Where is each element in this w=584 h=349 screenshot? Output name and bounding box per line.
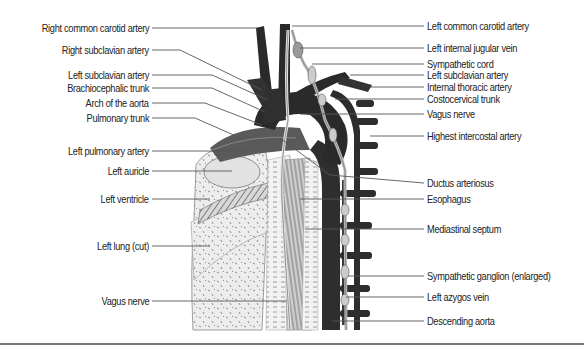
label-brachiocephalic-trunk: Brachiocephalic trunk [67,82,149,94]
label-left-ventricle: Left ventricle [101,193,149,205]
label-highest-intercostal-artery: Highest intercostal artery [427,130,521,142]
label-pulmonary-trunk: Pulmonary trunk [86,112,149,124]
label-left-azygos-vein: Left azygos vein [427,291,489,303]
label-left-subclavian-artery-left: Left subclavian artery [68,69,149,81]
label-left-pulmonary-artery: Left pulmonary artery [68,145,149,157]
label-costocervical-trunk: Costocervical trunk [427,93,500,105]
label-left-common-carotid-artery: Left common carotid artery [427,20,529,32]
label-esophagus: Esophagus [427,193,470,205]
label-internal-thoracic-artery: Internal thoracic artery [427,81,512,93]
label-right-common-carotid-artery: Right common carotid artery [41,22,149,34]
label-mediastinal-septum: Mediastinal septum [427,223,501,235]
label-left-auricle: Left auricle [107,165,149,177]
label-left-internal-jugular-vein: Left internal jugular vein [427,42,517,54]
label-descending-aorta: Descending aorta [427,315,494,327]
label-left-subclavian-artery-right: Left subclavian artery [427,69,508,81]
label-vagus-nerve-left: Vagus nerve [101,295,149,307]
mediastinum [266,155,318,330]
label-left-lung-cut: Left lung (cut) [97,240,149,252]
label-right-subclavian-artery: Right subclavian artery [62,44,149,56]
label-arch-of-aorta: Arch of the aorta [86,97,149,109]
left-lung [191,140,268,330]
label-sympathetic-ganglion: Sympathetic ganglion (enlarged) [427,270,550,282]
label-ductus-arteriosus: Ductus arteriosus [427,177,494,189]
bottom-divider [0,343,584,345]
anatomy-figure: Right common carotid artery Right subcla… [0,0,584,349]
label-vagus-nerve-right: Vagus nerve [427,108,475,120]
